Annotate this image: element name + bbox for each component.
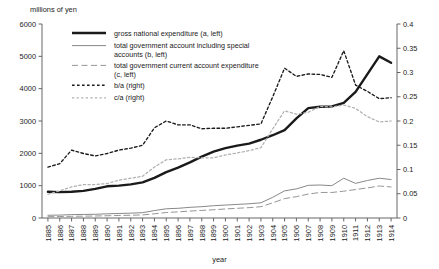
x-axis-tick-label: 1902 (245, 225, 254, 241)
y-axis-right-tick-label: 0.4 (403, 20, 413, 29)
x-axis-tick-label: 1903 (257, 225, 266, 241)
y-axis-left-tick-label: 6000 (20, 20, 36, 29)
y-axis-right-tick-label: 0.1 (403, 165, 413, 174)
x-axis-tick-label: 1910 (340, 225, 349, 241)
y-axis-left-tick-label: 1000 (20, 181, 36, 190)
y-axis-right-tick-label: 0.3 (403, 68, 413, 77)
y-axis-right-tick-label: 0.2 (403, 117, 413, 126)
x-axis-tick-label: 1894 (150, 225, 159, 241)
x-axis-tick-label: 1907 (304, 225, 313, 241)
y-axis-right-tick-label: 0.35 (403, 44, 417, 53)
chart-figure: 010002000300040005000600000.050.10.150.2… (0, 0, 439, 269)
x-axis-tick-label: 1892 (127, 225, 136, 241)
legend-label: c/a (right) (114, 93, 144, 102)
x-axis-tick-label: 1911 (351, 225, 360, 241)
y-axis-left-tick-label: 5000 (20, 52, 36, 61)
x-axis-tick-label: 1886 (56, 225, 65, 241)
y-axis-left-title: millions of yen (30, 5, 77, 14)
x-axis-tick-label: 1912 (363, 225, 372, 241)
series-line (48, 186, 391, 217)
legend-label: total government account including speci… (114, 41, 250, 50)
x-axis-tick-label: 1890 (103, 225, 112, 241)
y-axis-right-tick-label: 0 (403, 214, 407, 223)
y-axis-right-tick-label: 0.25 (403, 92, 417, 101)
x-axis-tick-label: 1899 (209, 225, 218, 241)
y-axis-left-tick-label: 2000 (20, 149, 36, 158)
x-axis-tick-label: 1905 (280, 225, 289, 241)
x-axis-tick-label: 1913 (375, 225, 384, 241)
y-axis-left-tick-label: 4000 (20, 84, 36, 93)
line-chart-svg: 010002000300040005000600000.050.10.150.2… (0, 0, 439, 269)
x-axis-tick-label: 1895 (162, 225, 171, 241)
x-axis-tick-label: 1885 (44, 225, 53, 241)
x-axis-tick-label: 1888 (79, 225, 88, 241)
y-axis-right-tick-label: 0.05 (403, 189, 417, 198)
x-axis-tick-label: 1900 (221, 225, 230, 241)
legend-label: gross national expenditure (a, left) (114, 29, 223, 38)
legend-label: accounts (b, left) (114, 50, 167, 59)
legend-label: total government current account expendi… (114, 61, 259, 70)
y-axis-left-tick-label: 3000 (20, 117, 36, 126)
x-axis-tick-label: 1897 (186, 225, 195, 241)
y-axis-right-tick-label: 0.15 (403, 141, 417, 150)
x-axis-title: year (212, 255, 227, 264)
x-axis-tick-label: 1898 (198, 225, 207, 241)
x-axis-tick-label: 1908 (316, 225, 325, 241)
x-axis-tick-label: 1904 (269, 225, 278, 241)
legend-label: (c, left) (114, 70, 136, 79)
x-axis-tick-label: 1901 (233, 225, 242, 241)
x-axis-tick-label: 1896 (174, 225, 183, 241)
x-axis-tick-label: 1887 (67, 225, 76, 241)
series-line (48, 56, 391, 192)
x-axis-tick-label: 1909 (328, 225, 337, 241)
x-axis-tick-label: 1889 (91, 225, 100, 241)
x-axis-tick-label: 1893 (138, 225, 147, 241)
x-axis-tick-label: 1906 (292, 225, 301, 241)
x-axis-tick-label: 1891 (115, 225, 124, 241)
legend-label: b/a (right) (114, 81, 145, 90)
y-axis-left-tick-label: 0 (32, 214, 36, 223)
x-axis-tick-label: 1914 (387, 225, 396, 241)
